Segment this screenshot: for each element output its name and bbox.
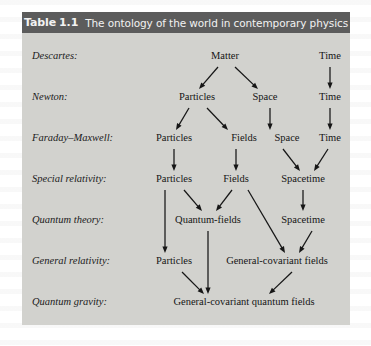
table-figure: Table 1.1 The ontology of the world in c… [22, 12, 350, 325]
arrow-particles-down-long [162, 190, 167, 253]
row-label: Newton: [32, 91, 68, 102]
arrow-particles-to-fields [207, 108, 228, 130]
ontology-node: Time [319, 132, 341, 143]
arrow-particles-to-quantum-fields [184, 190, 202, 211]
ontology-node: Space [252, 91, 277, 102]
ontology-node: Spacetime [281, 173, 325, 184]
ontology-node: Time [319, 91, 341, 102]
arrow-time-to-time-2 [327, 108, 332, 130]
arrow-fields-to-quantum-fields [216, 190, 232, 211]
ontology-node: Particles [156, 173, 192, 184]
ontology-node: General-covariant quantum fields [173, 296, 314, 307]
arrow-particles-to-particles-1 [176, 108, 189, 130]
row-label: Quantum gravity: [32, 296, 107, 307]
arrow-space-to-spacetime [283, 149, 300, 171]
ontology-node: Time [319, 50, 341, 61]
ontology-node: Fields [223, 173, 249, 184]
ontology-node: Particles [156, 132, 192, 143]
arrow-particles-to-gcqf [182, 272, 204, 294]
arrow-matter-to-space [235, 67, 258, 89]
row-label: Special relativity: [32, 173, 107, 184]
arrow-spacetime-to-gc-fields [299, 231, 312, 253]
ontology-node: Spacetime [281, 214, 325, 225]
ontology-node: Quantum-fields [175, 214, 241, 225]
ontology-node: Space [274, 132, 299, 143]
arrow-spacetime-to-spacetime [300, 190, 305, 211]
arrow-quantum-fields-down-long [205, 231, 210, 294]
arrow-particles-to-particles-2 [171, 149, 176, 171]
ontology-node: Particles [179, 91, 215, 102]
arrow-time-to-time-1 [327, 67, 332, 89]
ontology-node: Matter [211, 50, 239, 61]
table-header: Table 1.1 The ontology of the world in c… [22, 12, 350, 33]
row-label: Faraday–Maxwell: [32, 132, 113, 143]
ontology-node: Fields [231, 132, 257, 143]
ontology-node: General-covariant fields [226, 255, 328, 266]
arrow-fields-to-fields [233, 149, 238, 171]
row-label: General relativity: [32, 255, 110, 266]
arrow-gc-fields-to-gcqf [269, 272, 292, 294]
arrow-space-to-space [267, 108, 272, 130]
table-header-title: The ontology of the world in contemporar… [85, 17, 348, 29]
arrow-fields-to-gc-fields [248, 190, 285, 253]
arrow-time-to-spacetime [314, 149, 328, 171]
ontology-node: Particles [156, 255, 192, 266]
table-body: Descartes:MatterTimeNewton:ParticlesSpac… [22, 33, 350, 325]
table-header-number: 1.1 [59, 16, 78, 29]
table-header-label: Table [24, 16, 56, 29]
arrow-matter-to-particles [199, 67, 218, 89]
row-label: Quantum theory: [32, 214, 104, 225]
row-label: Descartes: [32, 50, 78, 61]
